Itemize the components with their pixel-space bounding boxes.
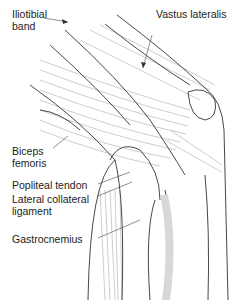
label-iliotibial-band-1: Iliotibial [12, 8, 47, 20]
arrowheads [62, 19, 146, 68]
outline-strokes [30, 15, 228, 300]
label-iliotibial-band-2: band [12, 20, 35, 32]
label-biceps-femoris-2: femoris [12, 157, 46, 169]
label-lateral-collateral-1: Lateral collateral [12, 193, 89, 205]
label-lateral-collateral-2: ligament [12, 205, 52, 217]
label-gastrocnemius: Gastrocnemius [12, 233, 83, 245]
label-biceps-femoris-1: Biceps [12, 145, 44, 157]
knee-diagram: Iliotibial band Vastus lateralis Biceps … [0, 0, 238, 306]
label-popliteal-tendon: Popliteal tendon [12, 179, 87, 191]
shading [160, 195, 174, 300]
label-vastus-lateralis: Vastus lateralis [156, 8, 226, 20]
muscle-fibers [40, 25, 222, 300]
